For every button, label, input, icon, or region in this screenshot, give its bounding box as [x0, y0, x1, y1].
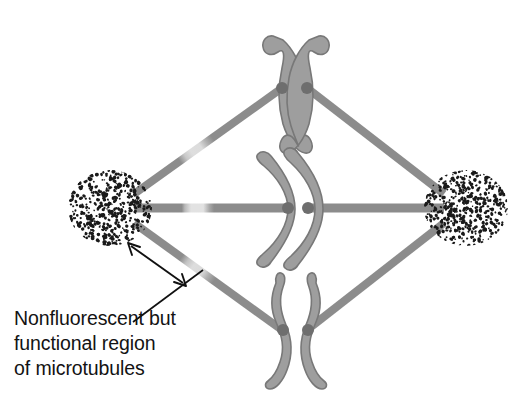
pole-speckle	[478, 180, 482, 184]
pole-speckle	[93, 209, 95, 211]
pole-speckle	[122, 184, 125, 188]
pole-speckle	[439, 198, 442, 200]
pole-speckle	[483, 173, 485, 175]
pole-speckle	[119, 198, 121, 200]
pole-speckle	[92, 194, 95, 196]
pole-speckle	[120, 231, 123, 234]
pole-speckle	[72, 205, 75, 208]
pole-speckle	[495, 185, 498, 188]
pole-speckle	[145, 219, 150, 224]
pole-speckle	[459, 220, 461, 222]
pole-speckle	[119, 242, 123, 246]
pole-speckle	[424, 215, 429, 220]
pole-speckle	[92, 180, 95, 183]
pole-speckle	[505, 200, 507, 203]
pole-speckle	[497, 222, 500, 225]
bundle-upper-left	[134, 88, 282, 194]
pole-speckle	[124, 190, 126, 193]
pole-speckle	[72, 211, 74, 213]
pole-speckle	[446, 236, 448, 238]
pole-speckle	[486, 205, 489, 208]
pole-speckle	[489, 217, 492, 221]
callout-caption: Nonfluorescent but functional region of …	[14, 306, 244, 381]
pole-speckle	[455, 175, 460, 180]
pole-speckle	[496, 222, 498, 224]
pole-speckle	[499, 207, 502, 211]
pole-speckle	[69, 214, 73, 218]
pole-speckle	[128, 219, 131, 222]
pole-speckle	[488, 192, 490, 195]
pole-speckle	[450, 220, 452, 222]
pole-speckle	[124, 210, 127, 213]
pole-speckle	[134, 179, 137, 183]
pole-speckle	[102, 240, 107, 244]
pole-speckle	[482, 239, 484, 241]
pole-speckle	[473, 243, 476, 247]
caption-line-3: of microtubules	[14, 356, 244, 381]
pole-speckle	[458, 209, 461, 213]
pole-speckle	[484, 222, 489, 226]
pole-speckle	[87, 226, 90, 229]
pole-speckle	[103, 179, 105, 181]
pole-speckle	[431, 190, 434, 193]
centromere-middle-left	[282, 202, 294, 214]
pole-speckle	[127, 201, 130, 203]
pole-speckle	[122, 206, 125, 209]
pole-speckle	[501, 224, 504, 226]
pole-speckle	[107, 169, 110, 172]
pole-speckle	[449, 229, 453, 233]
pole-speckle	[107, 218, 111, 221]
pole-speckle	[460, 181, 463, 184]
pole-speckle	[493, 203, 495, 206]
pole-speckle	[465, 169, 467, 171]
pole-speckle	[72, 212, 75, 216]
pole-speckle	[485, 219, 488, 222]
pole-speckle	[479, 174, 481, 176]
pole-speckle	[125, 224, 129, 228]
pole-speckle	[457, 170, 461, 174]
caption-line-1: Nonfluorescent but	[14, 306, 244, 331]
pole-speckle	[494, 211, 496, 214]
pole-speckle	[464, 225, 467, 228]
pole-speckle	[129, 192, 131, 194]
pole-speckle	[102, 222, 105, 226]
pole-speckle	[88, 197, 91, 200]
pole-speckle	[449, 180, 451, 183]
pole-speckle	[74, 209, 77, 212]
pole-speckle	[87, 235, 90, 238]
pole-speckle	[131, 182, 134, 186]
pole-speckle	[482, 201, 488, 206]
pole-speckle	[506, 213, 509, 216]
pole-speckle	[86, 209, 88, 211]
centromere-top-right	[301, 82, 313, 94]
pole-speckle	[450, 183, 452, 185]
pole-speckle	[130, 237, 135, 242]
pole-speckle	[95, 215, 97, 217]
pole-speckle	[70, 203, 73, 205]
pole-speckle	[80, 227, 85, 232]
pole-speckle	[444, 173, 448, 177]
centromere-bottom-right	[302, 324, 314, 336]
pole-speckle	[461, 237, 463, 240]
pole-speckle	[96, 198, 100, 202]
pole-speckle	[483, 191, 488, 196]
pole-speckle	[490, 178, 493, 181]
pole-speckle	[490, 212, 494, 217]
pole-speckle	[465, 175, 467, 178]
pole-speckle	[466, 237, 468, 239]
pole-speckle	[94, 172, 99, 177]
pole-speckle	[489, 235, 492, 238]
pole-speckle	[76, 214, 79, 217]
pole-speckle	[475, 232, 477, 234]
pole-speckle	[490, 207, 495, 212]
pole-speckle	[141, 220, 145, 223]
pole-speckle	[429, 197, 431, 200]
pole-speckle	[442, 200, 446, 204]
pole-speckle	[501, 221, 504, 224]
pole-speckle	[487, 238, 489, 240]
pole-speckle	[497, 228, 500, 232]
pole-speckle	[85, 203, 88, 206]
pole-speckle	[426, 219, 428, 221]
pole-speckle	[116, 176, 119, 179]
pole-speckle	[73, 225, 76, 228]
